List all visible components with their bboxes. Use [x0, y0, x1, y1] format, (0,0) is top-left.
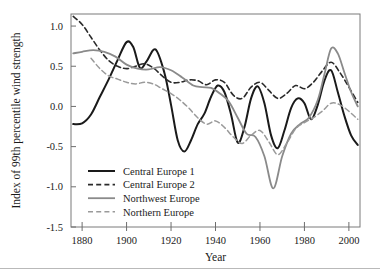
- y-tick-label: 0.0: [50, 101, 63, 112]
- y-tick-label: -1.0: [46, 181, 63, 192]
- y-tick-label: -1.5: [46, 222, 63, 233]
- y-tick-label: -0.5: [46, 141, 63, 152]
- x-tick-label: 1900: [116, 235, 137, 246]
- figure-root: 1.00.50.0-0.5-1.0-1.51880190019201940196…: [0, 0, 380, 276]
- wind-strength-line-chart: 1.00.50.0-0.5-1.0-1.51880190019201940196…: [0, 0, 380, 268]
- y-tick-label: 1.0: [50, 21, 63, 32]
- chart-figure: 1.00.50.0-0.5-1.0-1.51880190019201940196…: [0, 0, 380, 268]
- x-tick-label: 1920: [161, 235, 182, 246]
- x-tick-label: 1880: [72, 235, 93, 246]
- x-tick-label: 1960: [249, 235, 270, 246]
- legend-label-3: Northwest Europe: [123, 193, 200, 204]
- legend-label-2: Central Europe 2: [123, 179, 195, 190]
- x-axis-title: Year: [205, 251, 226, 263]
- x-tick-label: 1940: [205, 235, 226, 246]
- y-tick-label: 0.5: [50, 61, 63, 72]
- x-tick-label: 2000: [338, 235, 359, 246]
- figure-bottom-rule: [0, 268, 380, 269]
- y-axis-title: Index of 99th percentile wind strength: [10, 32, 23, 208]
- legend-label-1: Central Europe 1: [123, 166, 195, 177]
- legend-label-4: Northern Europe: [123, 207, 194, 218]
- x-tick-label: 1980: [294, 235, 315, 246]
